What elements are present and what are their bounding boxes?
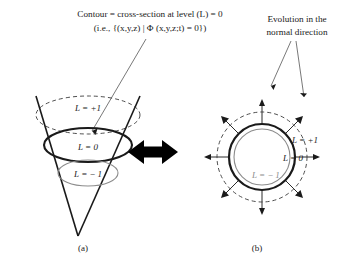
panel-b-label-zero: L = 0: [282, 153, 303, 163]
panel-b-caption: (b): [252, 243, 263, 253]
evolution-note-line1: Evolution in the: [267, 14, 326, 24]
panel-a-caption: (a): [78, 243, 88, 253]
evolution-note-line2: normal direction: [267, 27, 328, 37]
equivalence-double-arrow: [128, 140, 178, 164]
panel-a-cone: L = +1 L = 0 L = − 1: [36, 96, 140, 236]
panel-b-contours: L = +1 L = 0 L = − 1: [204, 99, 320, 215]
panel-a-label-plus1: L = +1: [74, 103, 101, 113]
panel-a-label-zero: L = 0: [77, 142, 98, 152]
contour-note-leader: [92, 39, 146, 135]
panel-b-label-minus1: L = − 1: [251, 170, 280, 180]
evolution-note-leaders: [271, 41, 307, 97]
contour-note-line2: (i.e., {(x,y,z) | Φ (x,y,z;t) = 0}): [94, 23, 206, 33]
panel-a-label-minus1: L = − 1: [73, 169, 102, 179]
level-set-figure: Contour = cross-section at level (L) = 0…: [0, 0, 355, 267]
figure-canvas: Contour = cross-section at level (L) = 0…: [0, 0, 355, 267]
contour-note-line1: Contour = cross-section at level (L) = 0: [77, 9, 223, 19]
panel-b-label-plus1: L = +1: [291, 135, 318, 145]
